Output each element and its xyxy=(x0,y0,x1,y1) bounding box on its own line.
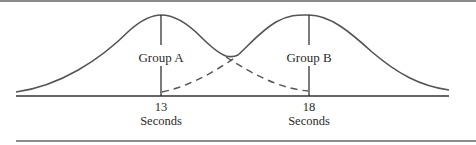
group-a-mean-value: 13 xyxy=(155,100,168,114)
group-b-unit-label: Seconds xyxy=(288,114,330,128)
group-b-mean-value: 18 xyxy=(303,100,316,114)
overlapping-distributions-figure: Group A Group B 13 Seconds 18 Seconds xyxy=(0,0,476,145)
combined-distribution-curve xyxy=(16,15,449,92)
group-a-label: Group A xyxy=(138,50,184,65)
group-a-unit-label: Seconds xyxy=(140,114,182,128)
group-b-label: Group B xyxy=(286,50,331,65)
